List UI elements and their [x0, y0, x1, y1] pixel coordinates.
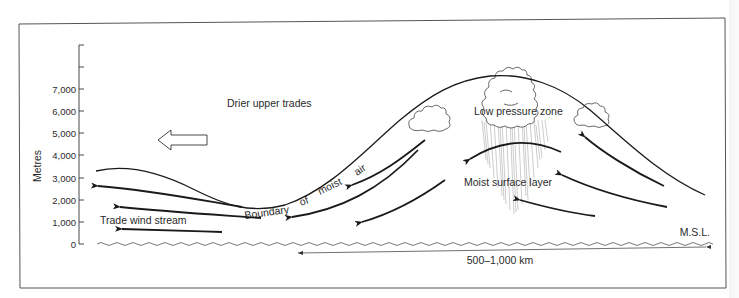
trade-wind-stream-label: Trade wind stream [100, 214, 187, 226]
upper-trades-arrow-icon [158, 130, 207, 150]
page-edge [729, 0, 739, 298]
boundary-word-1: Boundary [244, 203, 291, 221]
distance-label: 500–1,000 km [467, 254, 534, 266]
figure-frame [19, 18, 726, 288]
cloud-right [574, 103, 609, 128]
boundary-word-2: of [298, 194, 310, 208]
tick-4000: 4,000 [52, 150, 76, 161]
sea-level-line [97, 243, 713, 246]
boundary-word-3: moist [316, 175, 344, 197]
tick-7000: 7,000 [52, 84, 76, 95]
tick-5000: 5,000 [52, 128, 76, 139]
tick-2000: 2,000 [52, 195, 76, 206]
moist-surface-layer-label: Moist surface layer [464, 176, 553, 188]
drier-upper-trades-label: Drier upper trades [227, 97, 312, 109]
tick-0: 0 [71, 239, 76, 250]
y-axis [79, 45, 84, 244]
low-pressure-zone-label: Low pressure zone [474, 105, 563, 117]
distance-line [298, 247, 706, 253]
tick-1000: 1,000 [52, 217, 76, 228]
boundary-word-4: air [351, 161, 368, 178]
tick-3000: 3,000 [52, 173, 76, 184]
y-axis-tick-labels: 0 1,000 2,000 3,000 4,000 5,000 6,000 7,… [52, 84, 76, 250]
msl-label: M.S.L. [680, 226, 710, 238]
descending-arrows [292, 140, 445, 222]
rain-shading [482, 120, 548, 214]
cloud-left [409, 105, 450, 131]
y-axis-label: Metres [31, 150, 43, 182]
boundary-label: Boundary of moist air [244, 161, 369, 221]
tick-6000: 6,000 [52, 106, 76, 117]
trade-wind-diagram: 0 1,000 2,000 3,000 4,000 5,000 6,000 7,… [0, 0, 739, 298]
